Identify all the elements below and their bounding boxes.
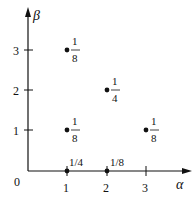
svg-text:8: 8 [151,132,157,144]
origin-label: 0 [14,175,20,189]
x-tick-label: 3 [142,181,148,195]
point-3-1: 1 8 [144,115,159,144]
y-axis-arrow-icon [25,7,31,17]
svg-text:1: 1 [72,35,78,47]
svg-text:1: 1 [151,115,157,127]
point-2-2: 1 4 [105,75,120,104]
svg-text:1/8: 1/8 [110,156,125,168]
svg-text:1/4: 1/4 [69,156,84,168]
svg-text:4: 4 [112,92,118,104]
svg-text:8: 8 [72,132,78,144]
x-tick-label: 1 [63,181,69,195]
x-axis-label: α [176,177,184,192]
svg-text:8: 8 [72,52,78,64]
y-axis-label: β [32,8,40,23]
x-axis-arrow-icon [182,168,192,174]
y-tick-label: 1 [13,124,19,138]
svg-text:1: 1 [112,75,118,87]
y-tick-label: 2 [13,84,19,98]
x-tick-label: 2 [103,181,109,195]
svg-text:1: 1 [72,115,78,127]
point-1-1: 1 8 [65,115,80,144]
y-tick-label: 3 [13,44,19,58]
joint-distribution-plot: β α 0 3 2 1 1 2 3 1 8 1 4 1 8 1 8 1/4 [0,0,196,202]
point-1-3: 1 8 [65,35,80,64]
